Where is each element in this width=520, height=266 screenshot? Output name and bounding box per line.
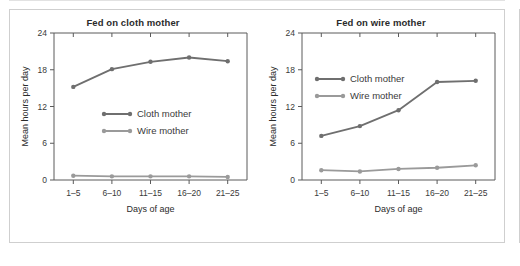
figure-top-edge: [9, 0, 505, 1]
figure-container: Fed on cloth mother 061218241–56–1011–15…: [0, 0, 520, 266]
figure-outer-frame: [9, 9, 505, 243]
